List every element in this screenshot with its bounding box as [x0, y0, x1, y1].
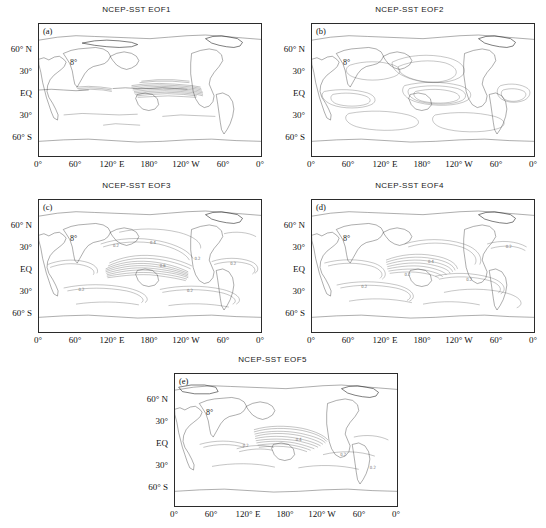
inline-degree-label: 8°: [343, 234, 350, 243]
x-tick-label: 180°: [140, 335, 157, 345]
panel-d-map: 0.4 0.2 0.2 0.2 0.2: [312, 200, 534, 332]
x-tick-label: 180°: [413, 159, 430, 169]
panel-d-letter: (d): [316, 202, 326, 212]
panel-a-title: NCEP-SST EOF1: [0, 5, 273, 14]
x-tick-label: 0°: [256, 335, 264, 345]
x-tick-label: 120° E: [373, 335, 398, 345]
panel-a-y-axis: 60° N 30° EQ 30° 60° S: [0, 23, 34, 155]
x-tick-label: 180°: [413, 335, 430, 345]
panel-c-letter: (c): [43, 202, 52, 212]
panel-e-y-axis: 60° N 30° EQ 30° 60° S: [136, 373, 170, 505]
y-tick-label: EQ: [20, 88, 32, 98]
svg-text:0.2: 0.2: [243, 443, 249, 448]
x-tick-label: 0°: [34, 335, 42, 345]
inline-degree-label: 8°: [70, 234, 77, 243]
x-tick-label: 0°: [34, 159, 42, 169]
y-tick-label: 30°: [19, 66, 32, 76]
x-tick-label: 180°: [276, 509, 293, 519]
x-tick-label: 60°: [69, 335, 82, 345]
y-tick-label: 60° S: [285, 308, 305, 318]
figure-ncep-sst-eof-panels: NCEP-SST EOF1 60° N 30° EQ 30° 60° S (a)…: [0, 0, 546, 528]
svg-text:0.2: 0.2: [340, 452, 346, 457]
panel-e-letter: (e): [179, 376, 188, 386]
x-tick-label: 60°: [342, 159, 355, 169]
panel-d: NCEP-SST EOF4 60° N 30° EQ 30° 60° S (d)…: [273, 178, 546, 354]
panel-d-title: NCEP-SST EOF4: [273, 181, 546, 190]
y-tick-label: 60° N: [284, 44, 305, 54]
svg-text:0.2: 0.2: [113, 243, 119, 248]
svg-text:0.4: 0.4: [296, 437, 302, 442]
svg-text:0.2: 0.2: [466, 276, 472, 281]
y-tick-label: 30°: [155, 460, 168, 470]
x-tick-label: 60°: [69, 159, 82, 169]
x-tick-label: 0°: [529, 159, 537, 169]
y-tick-label: 30°: [292, 286, 305, 296]
svg-text:0.2: 0.2: [506, 244, 512, 249]
y-tick-label: EQ: [293, 88, 305, 98]
y-tick-label: EQ: [156, 438, 168, 448]
x-tick-label: 120° W: [445, 159, 473, 169]
x-tick-label: 60°: [205, 509, 218, 519]
panel-e: NCEP-SST EOF5 60° N 30° EQ 30° 60° S (e)…: [136, 352, 409, 528]
x-tick-label: 0°: [529, 335, 537, 345]
panel-b-y-axis: 60° N 30° EQ 30° 60° S: [273, 23, 307, 155]
x-tick-label: 60°: [217, 159, 230, 169]
x-tick-label: 120° W: [172, 159, 200, 169]
y-tick-label: 60° S: [12, 132, 32, 142]
x-tick-label: 120° E: [373, 159, 398, 169]
x-tick-label: 180°: [140, 159, 157, 169]
y-tick-label: 60° S: [12, 308, 32, 318]
panel-b: NCEP-SST EOF2 60° N 30° EQ 30° 60° S (b)…: [273, 2, 546, 178]
x-tick-label: 0°: [392, 509, 400, 519]
x-tick-label: 60°: [490, 159, 503, 169]
x-tick-label: 60°: [353, 509, 366, 519]
panel-e-plot-area: (e) 8°: [174, 373, 398, 507]
y-tick-label: 30°: [292, 242, 305, 252]
y-tick-label: 60° N: [147, 394, 168, 404]
x-tick-label: 0°: [170, 509, 178, 519]
panel-c-plot-area: (c) 8°: [38, 199, 262, 333]
x-tick-label: 120° E: [236, 509, 261, 519]
x-tick-label: 0°: [256, 159, 264, 169]
svg-text:0.4: 0.4: [150, 240, 156, 245]
panel-d-y-axis: 60° N 30° EQ 30° 60° S: [273, 199, 307, 331]
y-tick-label: 60° N: [11, 220, 32, 230]
x-tick-label: 0°: [307, 335, 315, 345]
panel-a: NCEP-SST EOF1 60° N 30° EQ 30° 60° S (a)…: [0, 2, 273, 178]
inline-degree-label: 8°: [206, 408, 213, 417]
svg-text:0.2: 0.2: [78, 287, 84, 292]
panel-c: NCEP-SST EOF3 60° N 30° EQ 30° 60° S (c)…: [0, 178, 273, 354]
svg-text:0.2: 0.2: [361, 284, 367, 289]
inline-degree-label: 8°: [343, 58, 350, 67]
panel-b-plot-area: (b) 8°: [311, 23, 535, 157]
y-tick-label: 60° S: [285, 132, 305, 142]
svg-text:0.2: 0.2: [405, 272, 411, 277]
x-tick-label: 120° E: [100, 335, 125, 345]
svg-text:0.2: 0.2: [370, 465, 376, 470]
panel-d-plot-area: (d) 8°: [311, 199, 535, 333]
svg-text:0.4: 0.4: [428, 259, 434, 264]
panel-e-title: NCEP-SST EOF5: [136, 355, 409, 364]
svg-text:0.6: 0.6: [160, 263, 166, 268]
x-tick-label: 120° W: [445, 335, 473, 345]
panel-a-map: [39, 24, 261, 156]
y-tick-label: 30°: [19, 242, 32, 252]
x-tick-label: 60°: [217, 335, 230, 345]
y-tick-label: 60° N: [284, 220, 305, 230]
y-tick-label: 30°: [292, 66, 305, 76]
panel-b-map: [312, 24, 534, 156]
y-tick-label: 30°: [155, 416, 168, 426]
y-tick-label: EQ: [20, 264, 32, 274]
panel-c-map: 0.2 0.4 0.6 0.2 0.2 0.2 0.2: [39, 200, 261, 332]
y-tick-label: 30°: [19, 286, 32, 296]
x-tick-label: 0°: [307, 159, 315, 169]
x-tick-label: 60°: [490, 335, 503, 345]
panel-b-letter: (b): [316, 26, 326, 36]
x-tick-label: 120° W: [172, 335, 200, 345]
y-tick-label: 60° N: [11, 44, 32, 54]
svg-text:0.2: 0.2: [194, 256, 200, 261]
panel-a-plot-area: (a) 8°: [38, 23, 262, 157]
panel-c-y-axis: 60° N 30° EQ 30° 60° S: [0, 199, 34, 331]
y-tick-label: EQ: [293, 264, 305, 274]
y-tick-label: 60° S: [148, 482, 168, 492]
